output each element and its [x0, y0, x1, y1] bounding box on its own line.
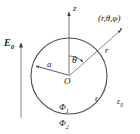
field-point-marker [120, 28, 122, 30]
applied-field-label: E0 [4, 38, 14, 51]
permittivity-outside-label: ε0 [117, 98, 123, 108]
potential-outside-subscript: 2 [66, 124, 69, 130]
potential-inside-symbol: Φ [59, 102, 66, 112]
origin-label: O [64, 77, 71, 86]
physics-diagram-dielectric-sphere: z (r,θ,φ) E0 a θ r O ε ε0 Φ1 Φ2 [0, 0, 140, 134]
radial-distance-label: r [105, 46, 109, 55]
radius-label: a [47, 60, 52, 69]
potential-outside-label: Φ2 [59, 119, 69, 130]
z-axis-label: z [73, 4, 77, 13]
potential-outside-symbol: Φ [59, 118, 66, 128]
theta-label: θ [72, 55, 77, 65]
permittivity-outside-subscript: 0 [120, 102, 123, 108]
radial-line [69, 30, 121, 76]
potential-inside-subscript: 1 [66, 108, 69, 114]
field-point-label: (r,θ,φ) [98, 14, 120, 23]
potential-inside-label: Φ1 [59, 103, 69, 114]
applied-field-subscript: 0 [11, 43, 14, 50]
radius-arrow [36, 66, 68, 75]
permittivity-inside-label: ε [95, 95, 98, 103]
applied-field-symbol: E [4, 37, 11, 48]
